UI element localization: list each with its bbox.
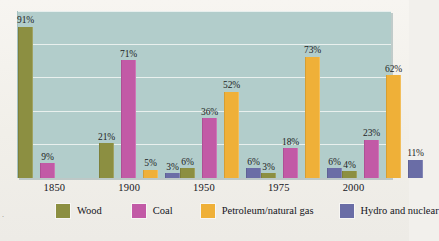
x-tick-2000: 2000 — [316, 180, 391, 196]
bar-value-label: 52% — [223, 81, 240, 91]
bar-slot: 6% — [180, 12, 195, 178]
bar-wood-1950: 6% — [180, 168, 195, 178]
bar-slot: 4% — [342, 12, 357, 178]
legend-swatch-icon — [56, 204, 70, 218]
x-tick-1850: 1850 — [17, 180, 92, 196]
bar-coal-1950: 36% — [202, 118, 217, 178]
bar-value-label: 6% — [328, 158, 340, 168]
bar-slot — [84, 12, 99, 178]
chart-legend: WoodCoalPetroleum/natural gasHydro and n… — [18, 201, 398, 221]
bar-value-label: 3% — [166, 163, 178, 173]
bar-coal-1975: 18% — [283, 148, 298, 178]
bar-slot: 11% — [408, 12, 423, 178]
legend-label: Coal — [153, 206, 173, 217]
x-axis-tick-labels: 18501900195019752000 — [17, 180, 391, 196]
x-tick-1975: 1975 — [241, 180, 316, 196]
bar-coal-1850: 9% — [40, 163, 55, 178]
page-corner-mark: . — [2, 210, 4, 219]
bar-value-label: 62% — [385, 65, 402, 75]
bar-wood-1975: 3% — [261, 173, 276, 178]
legend-label: Hydro and nuclear — [361, 206, 439, 217]
bar-value-label: 18% — [282, 138, 299, 148]
x-tick-1900: 1900 — [92, 180, 167, 196]
bar-value-label: 21% — [98, 133, 115, 143]
bar-coal-2000: 23% — [364, 140, 379, 178]
bar-petroleum-natural-gas-2000: 62% — [386, 75, 401, 178]
bar-group-1900: 21%71%5%3% — [99, 12, 180, 178]
bar-wood-1850: 91% — [18, 27, 33, 178]
legend-item-coal[interactable]: Coal — [132, 204, 173, 218]
bar-value-label: 71% — [120, 50, 137, 60]
bar-value-label: 11% — [407, 149, 423, 159]
bar-slot: 3% — [261, 12, 276, 178]
bar-slot: 62% — [386, 12, 401, 178]
bar-wood-2000: 4% — [342, 171, 357, 178]
bar-value-label: 9% — [41, 153, 53, 163]
legend-label: Wood — [77, 206, 102, 217]
bar-slot: 71% — [121, 12, 136, 178]
bar-slot: 6% — [246, 12, 261, 178]
bar-coal-1900: 71% — [121, 60, 136, 178]
plot-canvas: 91%9%21%71%5%3%6%36%52%6%3%18%73%6%4%23%… — [17, 11, 391, 178]
bar-petroleum-natural-gas-1900: 5% — [143, 170, 158, 178]
bar-value-label: 23% — [363, 129, 380, 139]
bar-slot: 36% — [202, 12, 217, 178]
bar-value-label: 4% — [343, 161, 355, 171]
bar-value-label: 91% — [17, 16, 34, 26]
bar-slot: 52% — [224, 12, 239, 178]
bar-slot: 23% — [364, 12, 379, 178]
bar-slot: 21% — [99, 12, 114, 178]
legend-item-wood[interactable]: Wood — [56, 204, 102, 218]
legend-swatch-icon — [340, 204, 354, 218]
legend-swatch-icon — [132, 204, 146, 218]
legend-item-hydro-and-nuclear[interactable]: Hydro and nuclear — [340, 204, 439, 218]
x-tick-1950: 1950 — [167, 180, 242, 196]
bar-value-label: 36% — [201, 108, 218, 118]
bar-value-label: 6% — [247, 158, 259, 168]
bar-value-label: 73% — [304, 46, 321, 56]
bar-value-label: 3% — [262, 163, 274, 173]
bar-hydro-and-nuclear-1950: 6% — [246, 168, 261, 178]
legend-item-petroleum-natural-gas[interactable]: Petroleum/natural gas — [201, 204, 314, 218]
chart-plot-area: 91%9%21%71%5%3%6%36%52%6%3%18%73%6%4%23%… — [17, 11, 391, 178]
bar-slot — [62, 12, 77, 178]
bar-slot: 9% — [40, 12, 55, 178]
legend-swatch-icon — [201, 204, 215, 218]
bar-slot: 91% — [18, 12, 33, 178]
bar-hydro-and-nuclear-1975: 6% — [327, 168, 342, 178]
bar-group-1850: 91%9% — [18, 12, 99, 178]
bar-group-1950: 6%36%52%6% — [180, 12, 261, 178]
bar-group-2000: 4%23%62%11% — [342, 12, 423, 178]
legend-label: Petroleum/natural gas — [222, 206, 314, 217]
bar-slot: 5% — [143, 12, 158, 178]
bar-hydro-and-nuclear-2000: 11% — [408, 160, 423, 178]
bar-slot: 3% — [165, 12, 180, 178]
bar-value-label: 6% — [181, 158, 193, 168]
bar-value-label: 5% — [144, 159, 156, 169]
bar-slot: 73% — [305, 12, 320, 178]
bar-petroleum-natural-gas-1975: 73% — [305, 57, 320, 178]
bar-hydro-and-nuclear-1900: 3% — [165, 173, 180, 178]
bar-slot: 18% — [283, 12, 298, 178]
bar-wood-1900: 21% — [99, 143, 114, 178]
bar-petroleum-natural-gas-1950: 52% — [224, 92, 239, 178]
bar-groups: 91%9%21%71%5%3%6%36%52%6%3%18%73%6%4%23%… — [18, 12, 391, 178]
bar-group-1975: 3%18%73%6% — [261, 12, 342, 178]
bar-slot: 6% — [327, 12, 342, 178]
